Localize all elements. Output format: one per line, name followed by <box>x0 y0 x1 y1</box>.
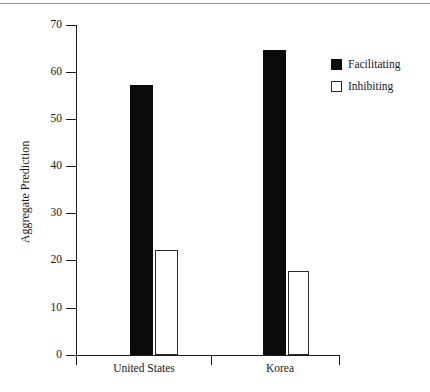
x-axis-tick-right <box>339 356 340 365</box>
filled-square-icon <box>331 59 342 70</box>
y-axis-tick-label-10: 10 <box>22 302 62 314</box>
y-axis-line <box>76 25 77 356</box>
y-axis-tick-70 <box>66 25 76 26</box>
x-axis-line <box>76 355 340 356</box>
y-axis-tick-label-60: 60 <box>22 66 62 78</box>
y-axis-tick-30 <box>66 213 76 214</box>
bar-korea-inhibiting <box>288 271 309 355</box>
y-axis-tick-0 <box>66 355 76 356</box>
outlined-square-icon <box>331 81 342 92</box>
x-axis-label-korea: Korea <box>225 362 335 375</box>
x-axis-tick-left <box>76 356 77 365</box>
bar-united-states-facilitating <box>130 85 153 355</box>
bar-chart-figure: 70 60 50 40 30 20 10 0 Aggregate Predict… <box>0 0 430 392</box>
y-axis-tick-label-70: 70 <box>22 19 62 31</box>
x-axis-label-united-states: United States <box>84 362 204 375</box>
y-axis-title: Aggregate Prediction <box>19 102 31 282</box>
bar-korea-facilitating <box>263 50 286 355</box>
y-axis-tick-60 <box>66 72 76 73</box>
bar-united-states-inhibiting <box>155 250 178 355</box>
legend-label-facilitating: Facilitating <box>348 58 400 70</box>
legend-label-inhibiting: Inhibiting <box>348 80 393 92</box>
y-axis-tick-label-0: 0 <box>22 349 62 361</box>
y-axis-tick-10 <box>66 308 76 309</box>
legend-item-facilitating: Facilitating <box>331 53 427 75</box>
y-axis-tick-40 <box>66 166 76 167</box>
y-axis-tick-20 <box>66 260 76 261</box>
chart-legend: Facilitating Inhibiting <box>331 53 427 97</box>
y-axis-tick-50 <box>66 119 76 120</box>
legend-item-inhibiting: Inhibiting <box>331 75 427 97</box>
x-axis-tick-middle <box>211 356 212 365</box>
